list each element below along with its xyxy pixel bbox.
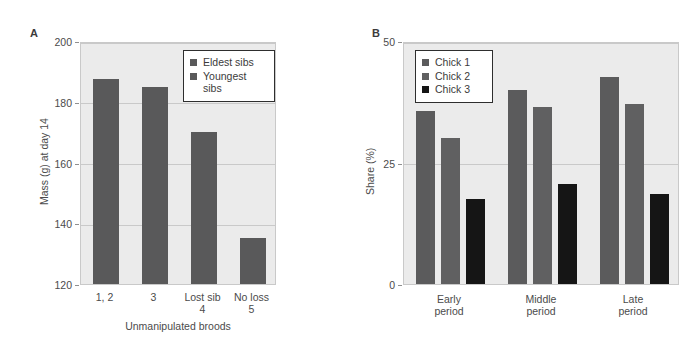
y-tick-label: 0 [359,279,395,291]
x-tick-label-line: Middle [526,293,557,305]
y-tick-label: 140 [32,218,72,230]
y-tick-mark [75,103,79,104]
bar [466,199,485,284]
bar [508,90,527,284]
legend-swatch-icon [422,73,429,80]
x-tick-label-main: 1, 2 [96,291,114,303]
bar [533,107,552,284]
y-tick-mark [398,42,402,43]
x-tick-label-line: period [434,305,463,317]
y-tick-label: 120 [32,279,72,291]
x-tick-label: Middleperiod [496,293,586,317]
panel-b-legend: Chick 1Chick 2Chick 3 [415,50,493,103]
legend-swatch-icon [190,73,197,80]
x-tick-label-line: period [618,305,647,317]
bar [625,104,644,284]
legend-swatch-icon [422,59,429,66]
panel-a-legend-item: Eldest sibs [190,56,266,69]
legend-label: Eldest sibs [203,56,254,69]
bar [240,238,266,284]
panel-a: A Mass (g) at day 14 120140160180200 1, … [0,0,345,342]
x-tick-label: No loss5 [216,291,288,315]
x-tick-label-sub: 5 [249,303,255,315]
bar [650,194,669,284]
panel-a-legend: Eldest sibsYoungest sibs [183,50,275,102]
legend-label: Chick 2 [435,70,470,83]
legend-swatch-icon [190,59,197,66]
y-tick-mark [398,164,402,165]
legend-label: Chick 1 [435,56,470,69]
y-tick-label: 25 [359,158,395,170]
gridline [81,43,275,44]
x-tick-label: Earlyperiod [404,293,494,317]
legend-label: Youngest sibs [203,70,246,95]
panel-b-legend-item: Chick 1 [422,56,484,69]
bar [93,79,119,284]
y-tick-mark [75,164,79,165]
x-tick-label-main: 3 [151,291,157,303]
bar [441,138,460,284]
panel-a-x-axis-title: Unmanipulated broods [80,320,276,332]
y-tick-mark [75,42,79,43]
x-tick-label-main: No loss [234,291,269,303]
panel-a-legend-item: Youngest sibs [190,70,266,95]
bar [600,77,619,284]
bar [142,87,168,284]
panel-b-y-axis-title: Share (%) [364,148,376,195]
bar [416,111,435,284]
gridline [404,43,678,44]
panel-b-legend-item: Chick 3 [422,83,484,96]
y-tick-mark [398,285,402,286]
legend-label: Chick 3 [435,83,470,96]
y-tick-label: 180 [32,97,72,109]
legend-swatch-icon [422,86,429,93]
x-tick-label-sub: 4 [200,303,206,315]
y-tick-label: 160 [32,158,72,170]
x-tick-label: Lateperiod [588,293,678,317]
panel-b-legend-item: Chick 2 [422,70,484,83]
y-tick-label: 200 [32,36,72,48]
panel-b: B Share (%) 02550 EarlyperiodMiddleperio… [345,0,691,342]
x-tick-label-line: period [526,305,555,317]
y-tick-label: 50 [359,36,395,48]
x-tick-label-line: Early [437,293,461,305]
y-tick-mark [75,285,79,286]
bar [558,184,577,284]
y-tick-mark [75,224,79,225]
bar [191,132,217,284]
x-tick-label-line: Late [623,293,643,305]
